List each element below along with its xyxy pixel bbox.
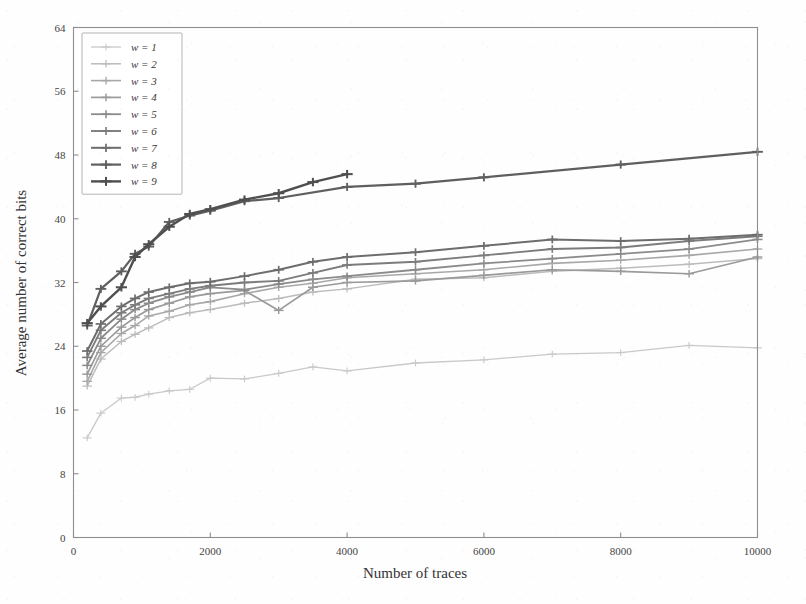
y-tick-label: 56 bbox=[55, 85, 67, 97]
y-tick-label: 40 bbox=[55, 213, 67, 225]
chart-page: 02000400060008000100000816243240485664 N… bbox=[0, 0, 806, 604]
series-1 bbox=[83, 342, 762, 441]
x-tick-label: 6000 bbox=[473, 545, 496, 557]
series-layer bbox=[82, 148, 763, 442]
y-tick-label: 8 bbox=[60, 468, 66, 480]
legend: w = 1w = 2w = 3w = 4w = 5w = 6w = 7w = 8… bbox=[82, 33, 182, 194]
y-axis-title: Average number of correct bits bbox=[13, 190, 29, 376]
legend-label: w = 9 bbox=[131, 175, 157, 187]
x-tick-label: 8000 bbox=[610, 545, 633, 557]
legend-label: w = 2 bbox=[131, 58, 157, 70]
series-line bbox=[87, 259, 757, 387]
y-tick-label: 16 bbox=[55, 404, 67, 416]
x-tick-label: 0 bbox=[71, 545, 77, 557]
series-2 bbox=[82, 255, 762, 390]
legend-label: w = 6 bbox=[131, 125, 157, 137]
legend-label: w = 5 bbox=[131, 108, 157, 120]
y-tick-label: 0 bbox=[60, 532, 66, 544]
series-5 bbox=[82, 236, 762, 369]
x-tick-label: 2000 bbox=[199, 545, 222, 557]
series-4 bbox=[82, 253, 762, 377]
y-tick-label: 32 bbox=[55, 277, 66, 289]
legend-label: w = 1 bbox=[131, 41, 157, 53]
legend-label: w = 4 bbox=[131, 91, 157, 103]
legend-label: w = 7 bbox=[131, 142, 157, 154]
x-tick-label: 10000 bbox=[744, 545, 772, 557]
y-tick-label: 48 bbox=[55, 149, 67, 161]
series-line bbox=[87, 152, 757, 326]
y-tick-label: 64 bbox=[55, 22, 67, 34]
series-line bbox=[87, 257, 757, 374]
legend-label: w = 3 bbox=[131, 75, 157, 87]
line-chart: 02000400060008000100000816243240485664 N… bbox=[0, 0, 806, 604]
x-tick-label: 4000 bbox=[336, 545, 359, 557]
y-tick-label: 24 bbox=[55, 340, 67, 352]
legend-label: w = 8 bbox=[131, 159, 157, 171]
x-axis-title: Number of traces bbox=[363, 565, 467, 581]
series-line bbox=[87, 345, 757, 437]
